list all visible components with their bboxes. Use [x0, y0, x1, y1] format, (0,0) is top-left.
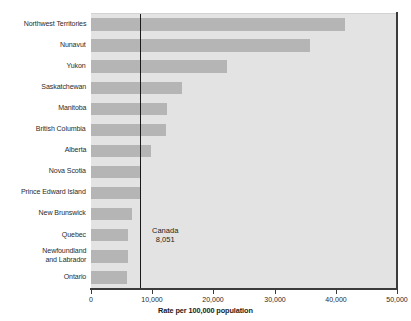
bar-row — [91, 166, 397, 178]
bar — [91, 145, 151, 157]
category-label: Northwest Territories — [23, 20, 86, 29]
category-label: Nova Scotia — [49, 167, 86, 176]
canada-annotation-label: Canada — [152, 226, 178, 235]
bar — [91, 18, 345, 30]
category-label-line: Saskatchewan — [41, 83, 86, 92]
plot-right-border — [396, 12, 398, 290]
bar-row — [91, 82, 397, 94]
bar — [91, 60, 227, 72]
category-label-line: Ontario — [63, 273, 86, 282]
bar — [91, 250, 128, 262]
category-label: Ontario — [63, 273, 86, 282]
x-axis-line — [90, 288, 398, 290]
bar-row — [91, 208, 397, 220]
bar — [91, 229, 128, 241]
canada-reference-line — [140, 14, 141, 288]
bar — [91, 271, 127, 283]
x-axis-tick-label: 30,000 — [264, 295, 285, 304]
x-axis-tick-label: 0 — [89, 295, 93, 304]
bar — [91, 39, 310, 51]
bar — [91, 208, 132, 220]
bars-layer — [91, 14, 397, 288]
x-axis-tick-label: 20,000 — [203, 295, 224, 304]
bar-row — [91, 103, 397, 115]
category-label-line: Nova Scotia — [49, 167, 86, 176]
category-label: Nunavut — [60, 41, 86, 50]
x-axis-tick — [397, 290, 398, 294]
x-axis-tick — [91, 290, 92, 294]
canada-annotation-value: 8,051 — [152, 235, 178, 244]
category-label-line: Northwest Territories — [23, 20, 86, 29]
category-label: Quebec — [62, 231, 86, 240]
bar-row — [91, 250, 397, 262]
bar-row — [91, 60, 397, 72]
bar — [91, 166, 140, 178]
bar-row — [91, 187, 397, 199]
bar-row — [91, 229, 397, 241]
bar — [91, 103, 167, 115]
bar-row — [91, 271, 397, 283]
category-label-line: Nunavut — [60, 41, 86, 50]
x-axis-tick — [213, 290, 214, 294]
category-label-line: Prince Edward Island — [21, 188, 86, 197]
category-label: New Brunswick — [39, 209, 86, 218]
category-label: Newfoundlandand Labrador — [42, 247, 86, 264]
x-axis-title-text: Rate per 100,000 population — [158, 306, 253, 315]
category-label: Prince Edward Island — [21, 188, 86, 197]
x-axis-tick-label: 40,000 — [325, 295, 346, 304]
category-label-line: New Brunswick — [39, 209, 86, 218]
bar-row — [91, 18, 397, 30]
bar-row — [91, 124, 397, 136]
canada-annotation: Canada 8,051 — [152, 226, 178, 245]
category-label: British Columbia — [36, 125, 86, 134]
x-axis-tick — [275, 290, 276, 294]
category-label: Alberta — [64, 146, 86, 155]
bar-row — [91, 39, 397, 51]
category-label-line: and Labrador — [42, 256, 86, 265]
x-axis-tick-label: 10,000 — [141, 295, 162, 304]
bar — [91, 82, 182, 94]
x-axis-tick — [152, 290, 153, 294]
category-label: Manitoba — [58, 104, 86, 113]
category-label-line: British Columbia — [36, 125, 86, 134]
category-label: Saskatchewan — [41, 83, 86, 92]
bar — [91, 187, 140, 199]
category-label-line: Manitoba — [58, 104, 86, 113]
bar-row — [91, 145, 397, 157]
category-label: Yukon — [67, 62, 86, 71]
x-axis-title: Rate per 100,000 population — [0, 306, 411, 315]
category-label-line: Quebec — [62, 231, 86, 240]
category-label-line: Alberta — [64, 146, 86, 155]
category-label-line: Yukon — [67, 62, 86, 71]
bar — [91, 124, 166, 136]
x-axis-tick-label: 50,000 — [386, 295, 407, 304]
bar-chart: Northwest TerritoriesNunavutYukonSaskatc… — [0, 0, 411, 321]
x-axis-tick — [336, 290, 337, 294]
